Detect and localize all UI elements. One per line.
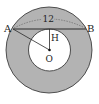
label-chord-length: 12 — [43, 14, 54, 24]
annulus-diagram: 12 A B H O — [0, 0, 99, 104]
label-H: H — [51, 33, 59, 43]
label-O: O — [46, 54, 53, 64]
label-B: B — [87, 23, 94, 34]
center-point — [48, 49, 51, 52]
label-A: A — [3, 23, 12, 34]
